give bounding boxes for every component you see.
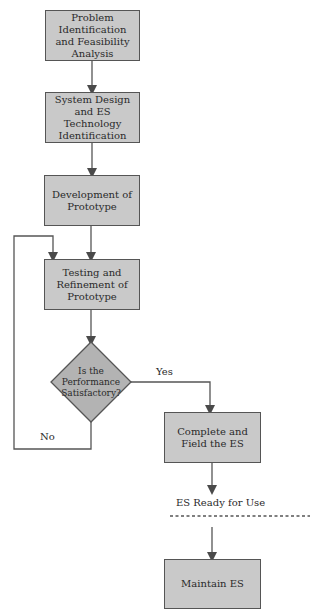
node-system-design: System Design and ES Technology Identifi…	[45, 92, 140, 143]
node-label: System Design and ES Technology Identifi…	[48, 94, 137, 142]
node-label: Problem Identification and Feasibility A…	[48, 12, 137, 60]
node-label: Testing and Refinement of Prototype	[47, 267, 137, 303]
node-label: Development of Prototype	[47, 189, 137, 213]
node-decision-label: Is the Performance Satisfactory?	[58, 350, 124, 414]
node-development-prototype: Development of Prototype	[44, 175, 140, 226]
milestone-label: ES Ready for Use	[176, 497, 265, 509]
node-label: Complete and Field the ES	[167, 426, 258, 450]
node-testing-refinement: Testing and Refinement of Prototype	[44, 259, 140, 310]
node-label: Maintain ES	[181, 578, 244, 590]
node-label: Is the Performance Satisfactory?	[58, 366, 124, 399]
yes-label: Yes	[156, 366, 173, 378]
node-problem-identification: Problem Identification and Feasibility A…	[45, 10, 140, 61]
no-label: No	[40, 431, 55, 443]
node-maintain-es: Maintain ES	[164, 559, 261, 609]
node-complete-field: Complete and Field the ES	[164, 412, 261, 463]
arrow-yes-to-complete	[131, 382, 210, 410]
